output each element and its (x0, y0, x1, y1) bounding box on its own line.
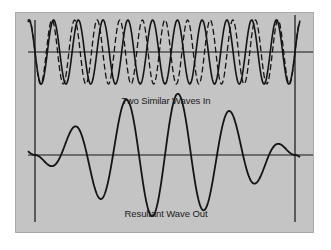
bottom-label: Resultant Wave Out (125, 208, 208, 219)
top-label: Two Similar Waves In (122, 95, 211, 106)
